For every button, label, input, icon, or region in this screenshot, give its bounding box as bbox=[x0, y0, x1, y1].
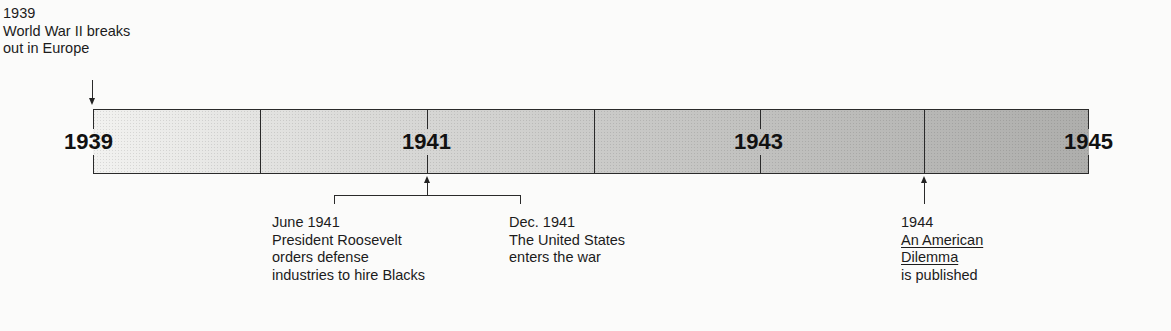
timeline-end-cap-bottom bbox=[1088, 155, 1089, 174]
timeline-bar bbox=[93, 109, 1089, 174]
event-text: industries to hire Blacks bbox=[272, 267, 425, 285]
event-1944-pointer-line bbox=[924, 182, 925, 204]
event-text: World War II breaks bbox=[3, 23, 130, 41]
year-label-1939: 1939 bbox=[64, 131, 113, 153]
book-title: Dilemma bbox=[901, 249, 958, 265]
divider-1944 bbox=[924, 109, 925, 174]
divider-1940 bbox=[260, 109, 261, 174]
timeline-start-cap-bottom bbox=[93, 155, 94, 174]
divider-1941-bottom bbox=[427, 155, 428, 174]
event-date: 1939 bbox=[3, 5, 130, 23]
book-title: An American bbox=[901, 232, 983, 248]
divider-1943-top bbox=[760, 109, 761, 129]
event-dec-1941: Dec. 1941 The United States enters the w… bbox=[509, 214, 625, 267]
event-text: out in Europe bbox=[3, 40, 130, 58]
event-text: is published bbox=[901, 267, 983, 285]
bracket-1941-left-leg bbox=[334, 195, 335, 204]
event-date: Dec. 1941 bbox=[509, 214, 625, 232]
event-text: enters the war bbox=[509, 249, 625, 267]
event-date: 1944 bbox=[901, 214, 983, 232]
event-text: orders defense bbox=[272, 249, 425, 267]
divider-1942 bbox=[594, 109, 595, 174]
bracket-1941-bar bbox=[334, 195, 521, 196]
event-june-1941: June 1941 President Roosevelt orders def… bbox=[272, 214, 425, 284]
event-text: President Roosevelt bbox=[272, 232, 425, 250]
event-1939-ww2: 1939 World War II breaks out in Europe bbox=[3, 5, 130, 58]
year-label-1945: 1945 bbox=[1064, 131, 1113, 153]
event-1944: 1944 An American Dilemma is published bbox=[901, 214, 983, 284]
timeline-end-cap-top bbox=[1088, 109, 1089, 129]
event-text: The United States bbox=[509, 232, 625, 250]
year-label-1941: 1941 bbox=[402, 131, 451, 153]
event-1939-pointer-line bbox=[92, 80, 93, 100]
timeline-start-cap-top bbox=[93, 109, 94, 129]
bracket-1941-stem bbox=[427, 182, 428, 195]
arrow-down-icon bbox=[89, 98, 95, 105]
bracket-1941-right-leg bbox=[520, 195, 521, 204]
event-date: June 1941 bbox=[272, 214, 425, 232]
year-label-1943: 1943 bbox=[734, 131, 783, 153]
divider-1943-bottom bbox=[760, 155, 761, 174]
divider-1941-top bbox=[427, 109, 428, 129]
